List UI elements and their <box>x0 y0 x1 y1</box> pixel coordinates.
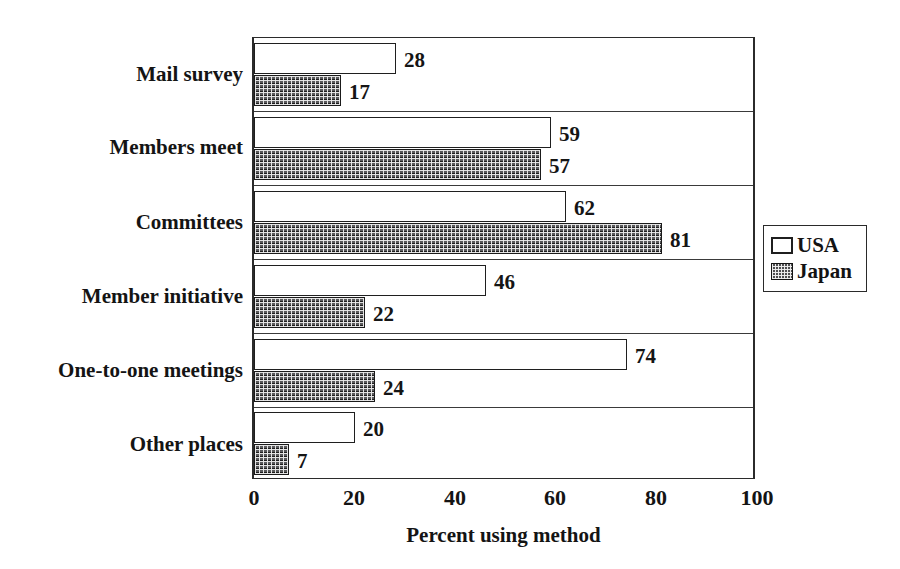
bar-value-label: 74 <box>635 346 656 367</box>
bar-group: 46 22 <box>254 259 753 333</box>
plot-area: 28 17 59 57 62 81 46 22 74 <box>252 37 755 479</box>
bar-group: 59 57 <box>254 111 753 185</box>
legend-label: USA <box>797 235 839 256</box>
y-axis-category-label: Member initiative <box>82 286 243 307</box>
bar-usa <box>254 339 627 370</box>
bar-group: 62 81 <box>254 185 753 259</box>
chart-figure: Mail survey Members meet Committees Memb… <box>0 0 900 569</box>
bar-value-label: 20 <box>363 419 384 440</box>
hollow-square-swatch-icon <box>771 237 793 254</box>
x-axis-tick-label: 0 <box>249 487 260 509</box>
legend: USA Japan <box>763 225 867 292</box>
bar-value-label: 57 <box>549 156 570 177</box>
bar-usa <box>254 265 486 296</box>
bar-value-label: 62 <box>574 198 595 219</box>
bar-usa <box>254 43 396 74</box>
legend-item-japan: Japan <box>771 258 859 284</box>
bar-japan <box>254 223 662 254</box>
bar-value-label: 28 <box>404 50 425 71</box>
bar-japan <box>254 75 341 106</box>
y-axis-category-label: One-to-one meetings <box>58 360 243 381</box>
x-axis-tick-label: 100 <box>741 487 774 509</box>
y-axis-category-label: Mail survey <box>136 64 243 85</box>
x-axis-tick-label: 40 <box>444 487 466 509</box>
x-axis-tick-label: 80 <box>645 487 667 509</box>
y-axis-category-label: Members meet <box>109 137 243 158</box>
bar-value-label: 7 <box>297 451 308 472</box>
bar-japan <box>254 444 289 475</box>
bar-value-label: 81 <box>670 230 691 251</box>
x-axis-tick-label: 20 <box>343 487 365 509</box>
bar-value-label: 17 <box>349 82 370 103</box>
bar-group: 20 7 <box>254 407 753 477</box>
bar-value-label: 22 <box>373 304 394 325</box>
bar-usa <box>254 191 566 222</box>
bar-value-label: 46 <box>494 272 515 293</box>
y-axis-category-label: Committees <box>136 212 243 233</box>
bar-value-label: 59 <box>559 124 580 145</box>
crosshatch-square-swatch-icon <box>771 263 793 280</box>
bar-value-label: 24 <box>383 378 404 399</box>
bar-japan <box>254 149 541 180</box>
x-axis-title: Percent using method <box>252 525 755 546</box>
bar-japan <box>254 297 365 328</box>
bar-group: 28 17 <box>254 38 753 111</box>
bar-japan <box>254 371 375 402</box>
y-axis-category-label: Other places <box>130 434 243 455</box>
legend-label: Japan <box>797 261 852 282</box>
bar-usa <box>254 412 355 443</box>
legend-item-usa: USA <box>771 232 859 258</box>
bar-group: 74 24 <box>254 333 753 407</box>
bar-usa <box>254 117 551 148</box>
x-axis-tick-label: 60 <box>544 487 566 509</box>
